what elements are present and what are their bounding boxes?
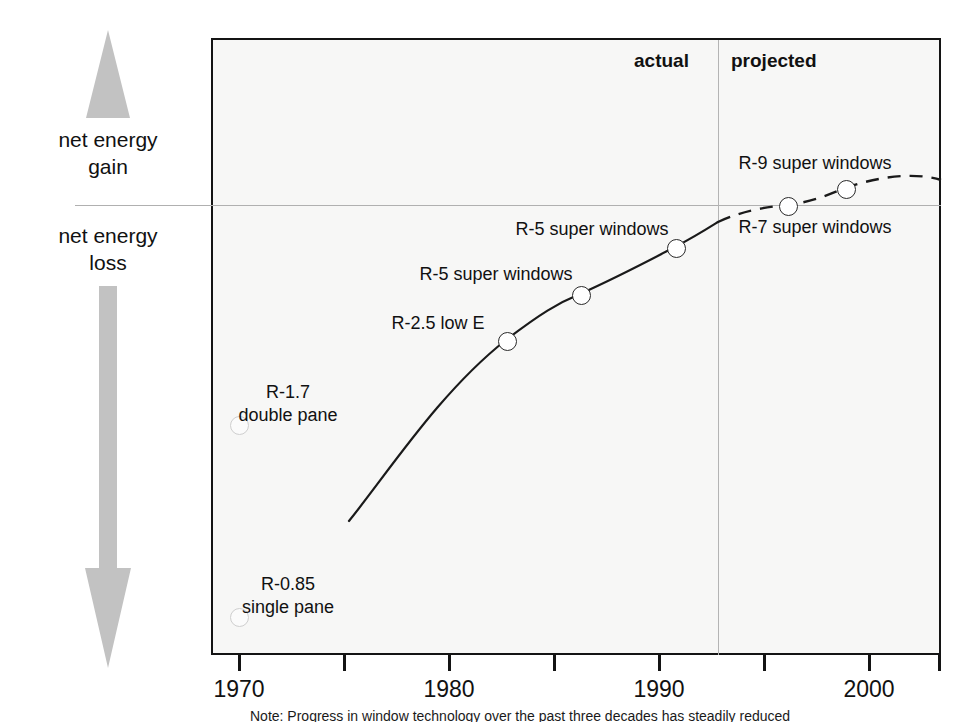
- era-divider-line: [718, 40, 719, 655]
- x-tick-1990: [658, 655, 661, 671]
- x-tick-1985: [553, 655, 556, 671]
- x-axis-label-1970: 1970: [179, 676, 299, 703]
- data-point-r-9[interactable]: [837, 180, 856, 199]
- data-point-r-7[interactable]: [779, 197, 798, 216]
- x-axis-label-2000: 2000: [809, 676, 929, 703]
- x-tick-1995: [763, 655, 766, 671]
- figure-caption: Note: Progress in window technology over…: [250, 708, 950, 722]
- plot-area: [211, 38, 941, 655]
- data-label-r-1-7: R-1.7 double pane: [173, 381, 403, 427]
- chart-figure: actual projected net energy gain net ene…: [0, 0, 963, 722]
- data-label-r-2-5: R-2.5 low E: [323, 312, 553, 335]
- x-axis-label-1990: 1990: [599, 676, 719, 703]
- x-axis-label-1980: 1980: [389, 676, 509, 703]
- data-point-r-5-a[interactable]: [572, 286, 591, 305]
- x-tick-1980: [448, 655, 451, 671]
- axis-label-net-energy-loss: net energy loss: [8, 222, 208, 276]
- era-label-projected: projected: [731, 50, 817, 72]
- x-tick-2000: [868, 655, 871, 671]
- data-label-r-5-b: R-5 super windows: [477, 218, 707, 241]
- data-label-r-7: R-7 super windows: [700, 216, 930, 239]
- era-label-actual: actual: [634, 50, 689, 72]
- x-tick-2005: [938, 655, 941, 671]
- x-tick-1970: [238, 655, 241, 671]
- net-energy-gain-arrow-icon: [84, 30, 132, 120]
- net-energy-loss-arrow-icon: [84, 286, 132, 668]
- zero-baseline: [75, 205, 941, 206]
- data-label-r-0-85: R-0.85 single pane: [173, 573, 403, 619]
- axis-label-net-energy-gain: net energy gain: [8, 126, 208, 180]
- data-label-r-5-a: R-5 super windows: [381, 263, 611, 286]
- x-tick-1975: [343, 655, 346, 671]
- data-label-r-9: R-9 super windows: [700, 152, 930, 175]
- data-point-r-5-b[interactable]: [667, 239, 686, 258]
